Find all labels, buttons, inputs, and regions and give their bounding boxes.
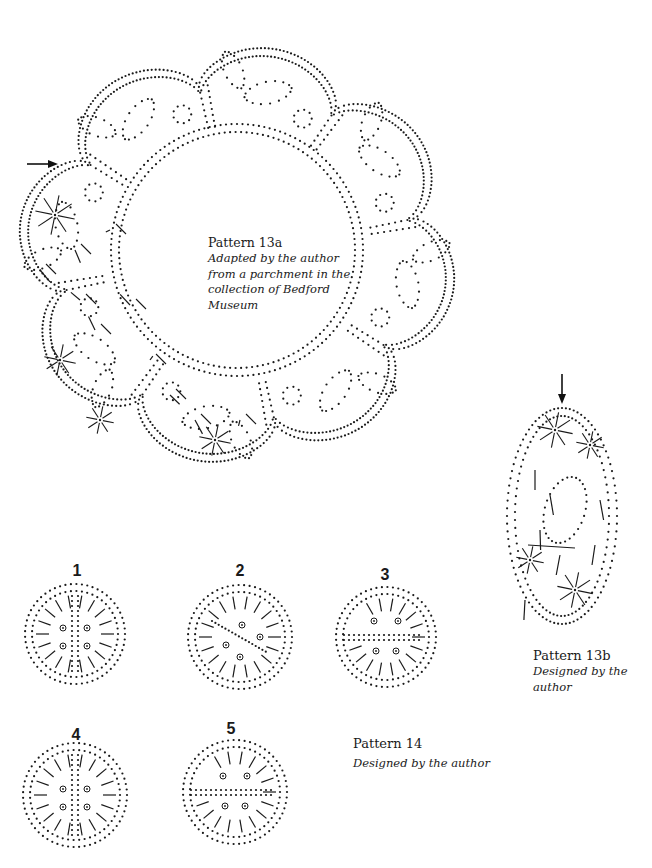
pattern-13b-title: Pattern 13b — [533, 648, 652, 664]
pattern-13b-caption: Pattern 13b Designed by the author — [533, 648, 652, 695]
pattern-14-caption: Pattern 14 Designed by the author — [353, 736, 553, 772]
pattern-14-title: Pattern 14 — [353, 736, 553, 752]
pattern-13a-caption-line: Adapted by the author — [208, 251, 408, 267]
variant-label-3: 3 — [370, 566, 400, 584]
variant-label-1: 1 — [62, 562, 92, 580]
pattern-13a-caption-line: Museum — [208, 298, 408, 314]
variant-label-5: 5 — [216, 720, 246, 738]
pricking-diagrams — [0, 0, 652, 868]
pattern-13a-caption-line: collection of Bedford — [208, 282, 408, 298]
pattern-13a-title: Pattern 13a — [208, 235, 408, 251]
variant-label-4: 4 — [61, 726, 91, 744]
variant-label-2: 2 — [225, 562, 255, 580]
pattern-13b-subtitle: Designed by the author — [533, 664, 652, 695]
pattern-14-subtitle: Designed by the author — [353, 756, 553, 772]
pattern-13a-caption-line: from a parchment in the — [208, 267, 408, 283]
pattern-13a-caption: Pattern 13a Adapted by the author from a… — [208, 235, 408, 313]
